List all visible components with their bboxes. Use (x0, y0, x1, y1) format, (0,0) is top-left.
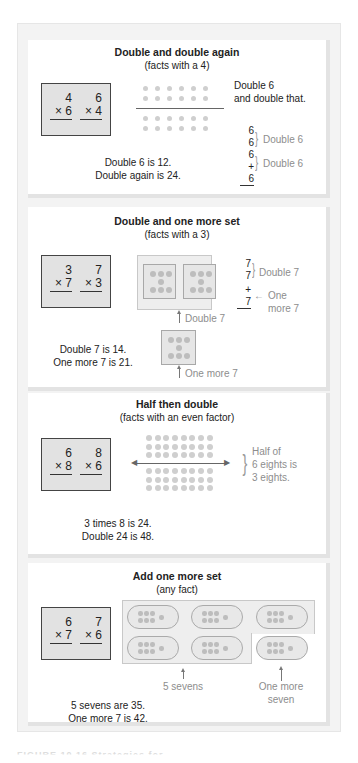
fact-bottom: × 7 (50, 629, 72, 644)
dot (202, 642, 207, 647)
seven-pill (256, 605, 308, 629)
arrow-label-line: more 7 (268, 302, 299, 315)
dot (138, 611, 143, 616)
fact-2: 7 × 6 (80, 616, 102, 644)
dot-array-top (143, 86, 208, 101)
dot (155, 126, 160, 131)
dot (273, 611, 278, 616)
dot (166, 287, 172, 293)
dot (203, 126, 208, 131)
dot (208, 618, 213, 623)
dot (288, 615, 293, 620)
panel-subtitle: (any fact) (28, 584, 326, 595)
dot (179, 96, 184, 101)
dot (273, 649, 278, 654)
dot (207, 477, 213, 483)
arrow-right-icon: ▶ (224, 456, 230, 469)
panel-subtitle: (facts with a 4) (28, 60, 326, 71)
summary-line: Double 24 is 48. (68, 530, 168, 543)
dot (146, 477, 152, 483)
brace-note-line: 6 eights is (252, 458, 297, 471)
dot (155, 444, 161, 450)
dot (155, 452, 161, 458)
dot (138, 618, 143, 623)
dot (159, 615, 164, 620)
dot (158, 271, 164, 277)
panel-double-one-more: Double and one more set (facts with a 3)… (28, 207, 330, 391)
dot (181, 435, 187, 441)
summary: 3 times 8 is 24. Double 24 is 48. (68, 517, 168, 543)
dot (176, 337, 182, 343)
brace-icon: } (243, 451, 248, 475)
addend: 7 (237, 258, 251, 270)
fact-2: 7 × 3 (80, 264, 102, 292)
fact-bottom: × 8 (50, 460, 72, 475)
panel-subtitle: (facts with an even factor) (28, 412, 326, 423)
panel-title: Add one more set (28, 570, 326, 582)
summary-line: 5 sevens are 35. (53, 699, 163, 712)
dot (206, 287, 212, 293)
summary: 5 sevens are 35. One more 7 is 42. (53, 699, 163, 725)
fact-card: 6 × 7 7 × 6 (41, 607, 111, 660)
summary: Double 7 is 14. One more 7 is 21. (38, 343, 148, 369)
dot (198, 452, 204, 458)
dot (179, 126, 184, 131)
fact-card: 6 × 8 8 × 6 (41, 438, 111, 491)
dot (189, 452, 195, 458)
fact-bottom: × 3 (80, 277, 102, 292)
dot (189, 477, 195, 483)
dot (155, 477, 161, 483)
dot (176, 345, 182, 351)
summary-line: Double 7 is 14. (38, 343, 148, 356)
dot (198, 477, 204, 483)
dot (207, 435, 213, 441)
dot (150, 271, 156, 277)
dot (144, 611, 149, 616)
brace-note-line: Half of (252, 445, 297, 458)
summary-line: 3 times 8 is 24. (68, 517, 168, 530)
brace-icon: } (255, 131, 258, 147)
dot (198, 485, 204, 491)
dot (150, 611, 155, 616)
brace-label: Double 6 (263, 157, 303, 170)
dot (273, 642, 278, 647)
dot (172, 444, 178, 450)
dot (155, 435, 161, 441)
dot (279, 611, 284, 616)
seven-dot-card (143, 264, 176, 299)
brace-note: Half of 6 eights is 3 eights. (252, 445, 297, 484)
pointer-arrow-icon (183, 671, 184, 679)
seven-pill (127, 636, 179, 660)
fact-1: 3 × 7 (50, 264, 72, 292)
dot (143, 116, 148, 121)
panel-title: Half then double (28, 398, 326, 410)
dot (166, 271, 172, 277)
dot-array-bottom (146, 468, 213, 491)
dot (172, 477, 178, 483)
dot (146, 444, 152, 450)
seven-pill (191, 636, 243, 660)
double-7-group (137, 255, 212, 310)
dot (167, 86, 172, 91)
dot (163, 477, 169, 483)
dot (267, 649, 272, 654)
dot (184, 353, 190, 359)
dot (203, 96, 208, 101)
addition-column: 6 6 6 + 6 (240, 125, 254, 186)
brace-icon: } (252, 262, 255, 278)
dot (273, 618, 278, 623)
seven-dot-card (183, 264, 216, 299)
dot (279, 649, 284, 654)
dot (172, 485, 178, 491)
fact-card: 3 × 7 7 × 3 (41, 255, 111, 308)
panel-half-double: Half then double (facts with an even fac… (28, 393, 330, 558)
fact-card: 4 × 6 6 × 4 (41, 83, 111, 136)
dot (214, 611, 219, 616)
dot (150, 649, 155, 654)
dot (279, 642, 284, 647)
summary-line: One more 7 is 21. (38, 356, 148, 369)
dot (168, 353, 174, 359)
dot (138, 642, 143, 647)
addend: 7 (237, 270, 251, 282)
dot (279, 618, 284, 623)
